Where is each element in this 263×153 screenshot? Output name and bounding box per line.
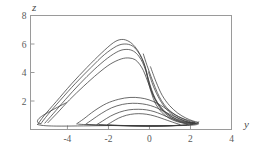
y-axis-title: z [32,1,36,13]
y-tick-label: 6 [22,40,27,50]
axis-ticks [31,16,232,130]
axis-tick-labels: -4-20242468 [22,11,234,144]
trajectory-path [148,72,198,123]
chart-container: -4-20242468 z y [0,0,263,153]
trajectory-series [37,39,198,126]
trajectory-path [41,44,198,124]
phase-plot-svg: -4-20242468 [0,0,263,153]
plot-frame [31,16,232,130]
x-axis-title: y [244,118,249,130]
trajectory-path [38,39,199,124]
x-tick-label: 4 [229,134,234,144]
x-tick-label: -4 [63,134,71,144]
trajectory-path [37,103,66,124]
x-tick-label: 0 [147,134,152,144]
y-tick-label: 4 [22,68,27,78]
plot-border [31,16,232,130]
trajectory-path [86,103,193,126]
y-tick-label: 8 [22,11,27,21]
x-tick-label: 2 [188,134,193,144]
y-tick-label: 2 [22,97,27,107]
x-tick-label: -2 [104,134,112,144]
